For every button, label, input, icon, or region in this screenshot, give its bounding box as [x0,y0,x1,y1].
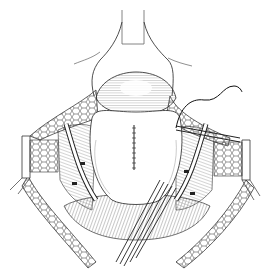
surgical-illustration [0,0,272,273]
left-retractor-blade [10,136,58,194]
right-retractor-blade [214,140,260,200]
illustration-svg [0,0,272,273]
